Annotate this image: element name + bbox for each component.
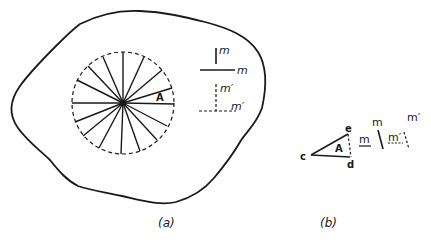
legend-solid-horizontal-label: m [237,64,248,77]
caption-a: (a) [158,216,175,230]
body-outline [11,11,265,203]
legend-solid-vertical-label: m [219,44,230,57]
diagram-canvas: A m m m′ m′ (a) c d e A m m m′ m′ (b) [0,0,431,242]
legend-dashed-vertical-label: m′ [220,82,234,95]
center-dot [120,100,126,106]
caption-b: (b) [320,216,337,230]
b-dashed-top-label: m′ [407,111,421,124]
legend-solid [200,48,235,70]
b-dashed-stroke [404,132,409,149]
vertex-label-d: d [347,159,354,170]
vertex-label-e: e [345,123,352,134]
b-solid-left-label: m [359,133,370,146]
vertex-label-c: c [300,151,306,162]
b-dashed-left-label: m′ [388,131,402,144]
sector-label-a: A [156,92,164,103]
legend-dashed-horizontal-label: m′ [231,100,245,113]
triangle-element [311,134,351,157]
b-solid-stroke [378,130,383,149]
b-solid-top-label: m [372,116,383,129]
triangle-label-a: A [335,143,343,154]
